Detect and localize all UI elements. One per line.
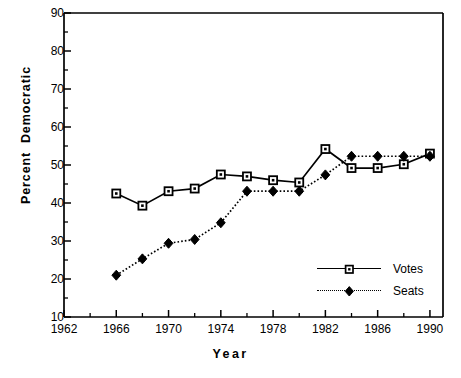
y-tick-label: 80 [36, 44, 64, 58]
x-tick-label: 1970 [155, 322, 182, 336]
legend-item-seats: Seats [317, 280, 424, 302]
y-tick-label: 50 [36, 158, 64, 172]
y-tick-label: 70 [36, 82, 64, 96]
legend-label-seats: Seats [393, 284, 424, 298]
x-tick-label: 1974 [207, 322, 234, 336]
y-tick-label: 20 [36, 272, 64, 286]
y-tick-label: 60 [36, 120, 64, 134]
x-axis-title: Year [0, 347, 461, 361]
x-tick-label: 1990 [417, 322, 444, 336]
chart-legend: Votes Seats [317, 258, 424, 302]
x-tick-label: 1982 [312, 322, 339, 336]
y-tick-label: 30 [36, 234, 64, 248]
legend-label-votes: Votes [393, 262, 423, 276]
x-tick-label: 1962 [51, 322, 78, 336]
y-tick-label: 40 [36, 196, 64, 210]
x-tick-label: 1978 [260, 322, 287, 336]
chart-container: Percent Democratic 908070605040302010 19… [0, 0, 461, 378]
legend-item-votes: Votes [317, 258, 424, 280]
legend-swatch-votes [317, 262, 381, 276]
legend-swatch-seats [317, 284, 381, 298]
y-tick-label: 90 [36, 6, 64, 20]
x-tick-label: 1986 [364, 322, 391, 336]
x-tick-label: 1966 [103, 322, 130, 336]
x-tick-labels: 19621966197019741978198219861990 [0, 322, 461, 342]
